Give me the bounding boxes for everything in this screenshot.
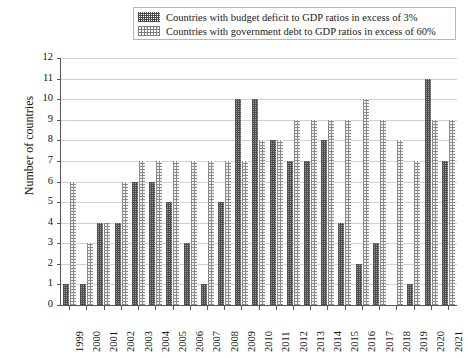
bar-budget-deficit: [356, 264, 362, 305]
bar-group: [78, 58, 95, 305]
x-axis-tick-mark: [414, 305, 415, 310]
y-axis-tick-mark: [57, 202, 61, 203]
bar-budget-deficit: [304, 161, 310, 305]
x-axis-tick-label: 2008: [229, 331, 240, 352]
bar-government-debt: [432, 120, 438, 305]
bar-group: [130, 58, 147, 305]
x-axis-tick-mark: [293, 305, 294, 310]
x-axis-tick-mark: [155, 305, 156, 310]
bar-government-debt: [328, 120, 334, 305]
bar-government-debt: [156, 161, 162, 305]
y-axis-tick-mark: [57, 284, 61, 285]
bar-group: [268, 58, 285, 305]
bar-budget-deficit: [149, 182, 155, 306]
x-axis-tick-mark: [138, 305, 139, 310]
x-axis-tick-label: 2002: [125, 331, 136, 352]
y-axis-tick-label: 3: [0, 236, 53, 247]
bar-budget-deficit: [115, 223, 121, 305]
bar-budget-deficit: [270, 140, 276, 305]
bar-budget-deficit: [425, 79, 431, 305]
bar-group: [405, 58, 422, 305]
bar-group: [319, 58, 336, 305]
bar-budget-deficit: [252, 99, 258, 305]
bar-budget-deficit: [97, 223, 103, 305]
x-axis-tick-label: 2014: [332, 331, 343, 352]
y-axis-tick-label: 11: [0, 72, 53, 83]
x-axis-tick-mark: [104, 305, 105, 310]
y-axis-tick-mark: [57, 182, 61, 183]
y-axis-tick-label: 7: [0, 154, 53, 165]
x-axis-tick-label: 2018: [401, 331, 412, 352]
y-axis-tick-mark: [57, 140, 61, 141]
bar-group: [371, 58, 388, 305]
x-axis-tick-label: 2020: [435, 331, 446, 352]
x-axis-tick-label: 2003: [143, 331, 154, 352]
x-axis-tick-mark: [121, 305, 122, 310]
y-axis-tick-label: 12: [0, 51, 53, 62]
bar-government-debt: [122, 182, 128, 306]
bar-budget-deficit: [338, 223, 344, 305]
bar-group: [233, 58, 250, 305]
bar-government-debt: [208, 161, 214, 305]
bar-group: [216, 58, 233, 305]
x-axis-tick-label: 2001: [108, 331, 119, 352]
bar-government-debt: [139, 161, 145, 305]
bar-budget-deficit: [407, 284, 413, 305]
bar-group: [354, 58, 371, 305]
x-axis-tick-mark: [396, 305, 397, 310]
bar-government-debt: [414, 161, 420, 305]
bar-group: [336, 58, 353, 305]
x-axis-tick-mark: [69, 305, 70, 310]
x-axis-tick-label: 2009: [246, 331, 257, 352]
y-axis-tick-mark: [57, 243, 61, 244]
bar-government-debt: [449, 120, 455, 305]
bar-budget-deficit: [373, 243, 379, 305]
x-axis-tick-labels: 1999200020012002200320042005200620072008…: [61, 311, 457, 357]
x-axis-tick-mark: [448, 305, 449, 310]
legend-item-budget-deficit: Countries with budget deficit to GDP rat…: [138, 10, 451, 24]
x-axis-tick-label: 2013: [315, 331, 326, 352]
x-axis-tick-mark: [190, 305, 191, 310]
y-axis-tick-label: 6: [0, 175, 53, 186]
bar-government-debt: [259, 140, 265, 305]
bar-budget-deficit: [218, 202, 224, 305]
bar-group: [423, 58, 440, 305]
x-axis-tick-mark: [259, 305, 260, 310]
y-axis-tick-mark: [57, 120, 61, 121]
x-axis-tick-mark: [276, 305, 277, 310]
y-axis-tick-mark: [57, 223, 61, 224]
bar-government-debt: [173, 161, 179, 305]
bar-series-container: [61, 58, 457, 305]
y-axis-tick-label: 2: [0, 257, 53, 268]
y-axis-tick-label: 8: [0, 133, 53, 144]
bar-government-debt: [191, 161, 197, 305]
bar-group: [388, 58, 405, 305]
bar-group: [95, 58, 112, 305]
bar-government-debt: [242, 161, 248, 305]
y-axis-tick-label: 5: [0, 195, 53, 206]
x-axis-tick-mark: [173, 305, 174, 310]
bar-government-debt: [345, 120, 351, 305]
legend-item-label: Countries with budget deficit to GDP rat…: [166, 11, 418, 24]
bar-group: [61, 58, 78, 305]
bar-budget-deficit: [166, 202, 172, 305]
bar-government-debt: [70, 182, 76, 306]
x-axis-tick-label: 2017: [384, 331, 395, 352]
bar-government-debt: [225, 161, 231, 305]
x-axis-tick-mark: [224, 305, 225, 310]
bar-group: [164, 58, 181, 305]
x-axis-tick-label: 2005: [177, 331, 188, 352]
bar-group: [113, 58, 130, 305]
x-axis-tick-label: 2010: [263, 331, 274, 352]
chart-legend: Countries with budget deficit to GDP rat…: [133, 7, 456, 40]
x-axis-tick-mark: [379, 305, 380, 310]
bar-group: [147, 58, 164, 305]
y-axis-tick-label: 10: [0, 92, 53, 103]
x-axis-tick-label: 2021: [453, 331, 464, 352]
y-axis-tick-mark: [57, 161, 61, 162]
y-axis-tick-mark: [57, 58, 61, 59]
y-axis-tick-mark: [57, 264, 61, 265]
plot-area: [61, 58, 457, 305]
bar-budget-deficit: [132, 182, 138, 306]
bar-budget-deficit: [442, 161, 448, 305]
